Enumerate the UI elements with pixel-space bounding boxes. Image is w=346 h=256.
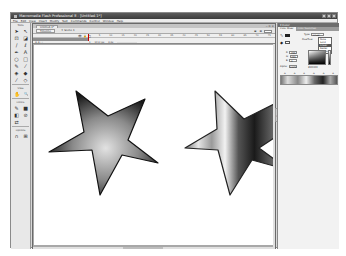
stage[interactable] xyxy=(34,45,274,245)
timeline-toggle-button[interactable]: Timeline xyxy=(36,29,55,33)
frame-number: 20 xyxy=(134,34,137,38)
menu-text[interactable]: Text xyxy=(62,19,68,22)
scene-label: Scene 1 xyxy=(64,29,74,32)
menu-insert[interactable]: Insert xyxy=(39,19,47,22)
timeline-scrollbar[interactable] xyxy=(117,42,137,44)
tools-panel: Tools ➤ ↖ ⊡ ◪ ∕ ℓ ✒ A ○ □ ✎ ⁄ ◈ ◆ ⁄ ◇ Vi… xyxy=(11,23,31,249)
g-input[interactable]: 255 xyxy=(290,55,298,58)
maximize-button[interactable] xyxy=(327,14,331,18)
brightness-slider[interactable] xyxy=(328,50,331,65)
menu-file[interactable]: File xyxy=(13,19,18,22)
paint-bucket-tool[interactable]: ◆ xyxy=(22,70,29,76)
free-transform-tool[interactable]: ⊡ xyxy=(13,35,20,41)
close-button[interactable] xyxy=(332,14,336,18)
menu-edit[interactable]: Edit xyxy=(21,19,26,22)
gradient-transform-icon: ◪ xyxy=(23,35,28,41)
lock-fill-icon: ⊞ xyxy=(23,133,27,139)
frame-ruler[interactable]: 1 5 10 15 20 25 30 35 40 45 50 55 60 65 … xyxy=(88,34,271,38)
stroke-color-swatch[interactable] xyxy=(285,34,290,37)
fill-color-swatch[interactable] xyxy=(285,41,290,44)
scene-breadcrumb[interactable]: ⚘ Scene 1 xyxy=(61,29,75,33)
zoom-icon: 🔍 xyxy=(24,92,28,96)
text-icon: A xyxy=(24,49,27,55)
eraser-tool[interactable]: ◇ xyxy=(22,77,29,83)
horizontal-scroll-thumb[interactable] xyxy=(123,247,163,249)
menu-window[interactable]: Window xyxy=(103,19,114,22)
menu-view[interactable]: View xyxy=(29,19,36,22)
star-radial-gradient xyxy=(49,91,158,195)
ink-bottle-tool[interactable]: ◈ xyxy=(13,70,20,76)
menu-control[interactable]: Control xyxy=(90,19,100,22)
frame-number: 75 xyxy=(268,34,271,38)
ink-bottle-icon: ◈ xyxy=(15,70,19,76)
frame-number: 10 xyxy=(109,34,112,38)
lasso-tool[interactable]: ℓ xyxy=(22,42,29,48)
gradient-pointer-icon[interactable]: ⌂ xyxy=(303,72,305,75)
frame-number: 70 xyxy=(256,34,259,38)
pencil-icon: ✎ xyxy=(14,63,18,69)
lock-fill-button[interactable]: ⊞ xyxy=(22,133,29,139)
subselect-tool[interactable]: ↖ xyxy=(22,28,29,34)
gradient-pointer-icon[interactable]: ⌂ xyxy=(294,72,296,75)
snap-button[interactable]: ∩ xyxy=(13,133,20,139)
arrow-tool[interactable]: ➤ xyxy=(13,28,20,34)
fill-bucket-icon: ◆ xyxy=(280,40,283,45)
fill-color-button[interactable]: ■ xyxy=(22,105,29,111)
eyedropper-tool[interactable]: ⁄ xyxy=(13,77,20,83)
frame-number: 15 xyxy=(122,34,125,38)
pen-tool[interactable]: ✒ xyxy=(13,49,20,55)
gradient-definition-bar[interactable]: ⌂ ⌂ ⌂ ⌂ ⌂ ⌂ xyxy=(280,72,338,86)
gradient-transform-tool[interactable]: ◪ xyxy=(22,35,29,41)
edit-symbol-scene-buttons[interactable]: ⊕ ⊗ xyxy=(254,29,263,33)
zoom-tool[interactable]: 🔍 xyxy=(22,91,29,97)
type-label: Type: xyxy=(304,33,310,36)
window-title: Macromedia Flash Professional 8 - [Untit… xyxy=(19,14,102,18)
frame-number: 35 xyxy=(170,34,173,38)
gradient-pointer-icon[interactable]: ⌂ xyxy=(313,72,315,75)
horizontal-scrollbar[interactable] xyxy=(33,247,275,249)
pencil-tool[interactable]: ✎ xyxy=(13,63,20,69)
r-label: R: xyxy=(286,51,288,54)
line-tool[interactable]: ∕ xyxy=(13,42,20,48)
menu-modify[interactable]: Modify xyxy=(50,19,59,22)
vertical-scrollbar[interactable] xyxy=(273,44,275,247)
stroke-color-button[interactable]: ✎ xyxy=(13,105,20,111)
black-white-icon: ◧ xyxy=(14,112,19,118)
zoom-dropdown[interactable] xyxy=(264,30,272,33)
hex-input[interactable]: #FFFFFF xyxy=(308,66,318,69)
b-input[interactable]: 0 xyxy=(289,59,297,62)
hand-tool[interactable]: ✋ xyxy=(13,91,20,97)
frame-number: 60 xyxy=(231,34,234,38)
pen-icon: ✒ xyxy=(14,49,18,55)
brush-tool[interactable]: ⁄ xyxy=(22,63,29,69)
frame-number: 50 xyxy=(207,34,210,38)
gradient-pointer-icon[interactable]: ⌂ xyxy=(323,72,325,75)
oval-tool[interactable]: ○ xyxy=(13,56,20,62)
color-panel: ▾ Color Color Mixer Color Swatches ✎ ◆ T… xyxy=(277,23,339,249)
eraser-icon: ◇ xyxy=(24,77,28,83)
hand-icon: ✋ xyxy=(14,91,20,97)
menu-commands[interactable]: Commands xyxy=(71,19,87,22)
minimize-button[interactable] xyxy=(322,14,326,18)
gradient-preview xyxy=(280,75,338,85)
app-icon xyxy=(14,15,17,18)
color-picker-field[interactable] xyxy=(308,50,326,65)
line-icon: ∕ xyxy=(16,42,18,48)
lasso-icon: ℓ xyxy=(24,42,26,48)
divider xyxy=(12,84,29,85)
swap-colors-button[interactable]: ⇄ xyxy=(13,119,20,125)
no-color-button[interactable]: ⊘ xyxy=(22,112,29,118)
r-input[interactable]: 255 xyxy=(289,51,297,54)
gradient-pointer-icon[interactable]: ⌂ xyxy=(284,72,286,75)
stage-canvas xyxy=(34,45,274,245)
black-white-button[interactable]: ◧ xyxy=(13,112,20,118)
alpha-input[interactable]: 100% xyxy=(289,65,297,68)
text-tool[interactable]: A xyxy=(22,49,29,55)
gradient-pointer-icon[interactable]: ⌂ xyxy=(332,72,334,75)
menu-help[interactable]: Help xyxy=(117,19,123,22)
stroke-color-icon: ✎ xyxy=(14,105,18,111)
rectangle-tool[interactable]: □ xyxy=(22,56,29,62)
star-linear-gradient xyxy=(185,91,274,195)
timeline-panel: 👁 🔒 □ 1 5 10 15 20 25 30 35 40 45 50 55 … xyxy=(33,34,275,44)
rectangle-icon: □ xyxy=(23,56,28,62)
